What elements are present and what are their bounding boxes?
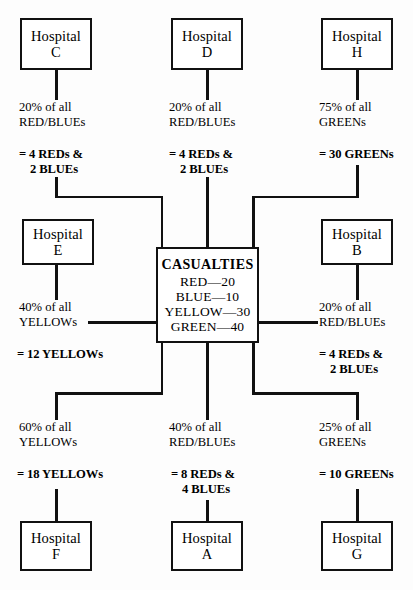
hospital-g-word: Hospital <box>332 530 382 546</box>
casualties-title: CASUALTIES <box>161 257 253 273</box>
connector-f-vertical-lower <box>55 489 58 521</box>
edge-label-e-share-line1: 40% of all <box>19 300 77 315</box>
edge-result-a-line2: 4 BLUEs <box>171 482 235 497</box>
edge-label-b-share-line1: 20% of all <box>319 300 385 315</box>
hospital-a-word: Hospital <box>182 530 232 546</box>
casualty-distribution-diagram: Hospital C Hospital D Hospital H Hospita… <box>0 0 413 590</box>
hospital-e-word: Hospital <box>33 226 83 242</box>
edge-label-e-share: 40% of all YELLOWs <box>18 300 78 330</box>
edge-result-f: = 18 YELLOWs <box>16 467 104 482</box>
connector-c-elbow-horizontal <box>55 196 163 199</box>
edge-result-f-line1: = 18 YELLOWs <box>17 467 103 482</box>
node-casualties[interactable]: CASUALTIES RED—20 BLUE—10 YELLOW—30 GREE… <box>156 247 259 343</box>
edge-label-c-share: 20% of all RED/BLUEs <box>18 100 86 130</box>
hospital-b-letter: B <box>352 242 362 258</box>
edge-label-h-share-line2: GREENs <box>319 115 371 130</box>
node-hospital-b[interactable]: Hospital B <box>321 219 393 265</box>
edge-label-e-share-line2: YELLOWs <box>19 315 77 330</box>
connector-g-vertical-upper <box>356 392 359 420</box>
edge-result-g-line1: = 10 GREENs <box>319 467 394 482</box>
edge-label-f-share-line1: 60% of all <box>19 420 77 435</box>
hospital-e-letter: E <box>54 242 63 258</box>
connector-g-elbow-vertical <box>252 343 255 394</box>
connector-a-vertical-lower <box>206 500 209 521</box>
edge-result-a-line1: = 8 REDs & <box>171 467 235 482</box>
edge-label-b-share-line2: RED/BLUEs <box>319 315 385 330</box>
edge-label-a-share-line2: RED/BLUEs <box>169 435 235 450</box>
edge-result-g: = 10 GREENs <box>318 467 395 482</box>
edge-result-h: = 30 GREENs <box>318 147 395 162</box>
hospital-h-word: Hospital <box>332 28 382 44</box>
hospital-f-letter: F <box>52 546 60 562</box>
edge-label-d-share-line1: 20% of all <box>169 100 235 115</box>
edge-label-c-share-line2: RED/BLUEs <box>19 115 85 130</box>
edge-result-h-line1: = 30 GREENs <box>319 147 394 162</box>
connector-h-vertical-upper <box>356 70 359 100</box>
edge-result-c-line2: 2 BLUEs <box>19 162 83 177</box>
edge-result-b-line2: 2 BLUEs <box>319 362 383 377</box>
connector-d-vertical-lower <box>206 165 209 248</box>
connector-f-vertical-upper <box>55 392 58 420</box>
edge-result-b: = 4 REDs & 2 BLUEs <box>318 347 384 377</box>
connector-c-vertical-upper <box>55 70 58 100</box>
edge-label-h-share-line1: 75% of all <box>319 100 371 115</box>
hospital-h-letter: H <box>352 44 363 60</box>
node-hospital-d[interactable]: Hospital D <box>171 18 243 70</box>
edge-label-f-share: 60% of all YELLOWs <box>18 420 78 450</box>
edge-result-e-line1: = 12 YELLOWs <box>17 347 103 362</box>
connector-a-vertical-upper <box>206 343 209 420</box>
connector-e-horizontal <box>88 321 160 324</box>
edge-result-c: = 4 REDs & 2 BLUEs <box>18 147 84 177</box>
edge-label-g-share-line1: 25% of all <box>319 420 371 435</box>
edge-label-a-share-line1: 40% of all <box>169 420 235 435</box>
edge-result-c-line1: = 4 REDs & <box>19 147 83 162</box>
hospital-c-letter: C <box>51 44 61 60</box>
casualties-red: RED—20 <box>180 274 235 289</box>
node-hospital-f[interactable]: Hospital F <box>20 521 92 571</box>
edge-result-e: = 12 YELLOWs <box>16 347 104 362</box>
edge-result-d: = 4 REDs & 2 BLUEs <box>168 147 234 177</box>
casualties-blue: BLUE—10 <box>176 289 240 304</box>
connector-g-vertical-lower <box>356 489 359 521</box>
hospital-g-letter: G <box>352 546 363 562</box>
connector-d-vertical-upper <box>206 70 209 100</box>
connector-h-elbow-vertical <box>252 196 255 249</box>
node-hospital-a[interactable]: Hospital A <box>171 521 243 571</box>
node-hospital-c[interactable]: Hospital C <box>20 18 92 70</box>
connector-g-elbow-horizontal <box>252 392 359 395</box>
hospital-b-word: Hospital <box>332 226 382 242</box>
connector-c-elbow-vertical <box>161 196 164 249</box>
edge-label-d-share-line2: RED/BLUEs <box>169 115 235 130</box>
connector-f-elbow-horizontal <box>55 392 163 395</box>
edge-label-f-share-line2: YELLOWs <box>19 435 77 450</box>
edge-result-a: = 8 REDs & 4 BLUEs <box>170 467 236 497</box>
edge-label-g-share-line2: GREENs <box>319 435 371 450</box>
hospital-d-word: Hospital <box>182 28 232 44</box>
edge-result-b-line1: = 4 REDs & <box>319 347 383 362</box>
edge-label-a-share: 40% of all RED/BLUEs <box>168 420 236 450</box>
node-hospital-e[interactable]: Hospital E <box>22 219 94 265</box>
hospital-f-word: Hospital <box>31 530 81 546</box>
edge-label-c-share-line1: 20% of all <box>19 100 85 115</box>
node-hospital-g[interactable]: Hospital G <box>321 521 393 571</box>
edge-label-d-share: 20% of all RED/BLUEs <box>168 100 236 130</box>
connector-f-elbow-vertical <box>161 343 164 394</box>
connector-b-vertical <box>356 265 359 300</box>
hospital-a-letter: A <box>202 546 213 562</box>
edge-result-d-line1: = 4 REDs & <box>169 147 233 162</box>
edge-label-b-share: 20% of all RED/BLUEs <box>318 300 386 330</box>
edge-result-d-line2: 2 BLUEs <box>169 162 233 177</box>
edge-label-g-share: 25% of all GREENs <box>318 420 372 450</box>
connector-h-vertical-lower <box>356 165 359 198</box>
casualties-yellow: YELLOW—30 <box>165 304 251 319</box>
hospital-c-word: Hospital <box>31 28 81 44</box>
casualties-green: GREEN—40 <box>171 319 245 334</box>
hospital-d-letter: D <box>202 44 213 60</box>
connector-h-elbow-horizontal <box>252 196 359 199</box>
node-hospital-h[interactable]: Hospital H <box>321 18 393 70</box>
edge-label-h-share: 75% of all GREENs <box>318 100 372 130</box>
connector-e-vertical <box>55 265 58 300</box>
connector-b-horizontal <box>255 321 326 324</box>
